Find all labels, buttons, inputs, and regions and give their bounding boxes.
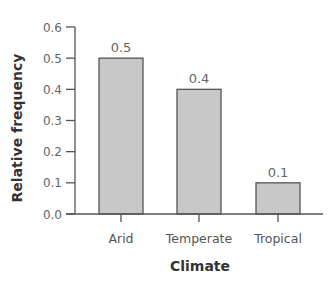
data-label: 0.4 bbox=[189, 71, 210, 86]
y-tick-label: 0.2 bbox=[43, 145, 62, 159]
y-tick-label: 0.6 bbox=[43, 21, 62, 35]
y-tick-label: 0.0 bbox=[43, 208, 62, 222]
y-tick-label: 0.1 bbox=[43, 176, 62, 190]
x-axis-label: Climate bbox=[170, 258, 230, 274]
y-tick-label: 0.4 bbox=[43, 83, 62, 97]
y-axis-label: Relative frequency bbox=[9, 54, 25, 203]
bar-chart: 0.00.10.20.30.40.50.6 0.50.40.1 AridTemp… bbox=[0, 0, 331, 281]
y-axis: 0.00.10.20.30.40.50.6 bbox=[43, 21, 75, 222]
bars: 0.50.40.1 bbox=[99, 40, 300, 214]
x-tick-label: Arid bbox=[108, 231, 133, 246]
bar-arid bbox=[99, 58, 143, 214]
data-label: 0.1 bbox=[268, 165, 289, 180]
y-tick-label: 0.5 bbox=[43, 52, 62, 66]
x-tick-label: Tropical bbox=[253, 231, 302, 246]
x-tick-label: Temperate bbox=[165, 231, 233, 246]
x-axis: AridTemperateTropical bbox=[66, 214, 323, 246]
y-tick-label: 0.3 bbox=[43, 114, 62, 128]
bar-tropical bbox=[256, 183, 300, 214]
bar-temperate bbox=[177, 89, 221, 214]
data-label: 0.5 bbox=[111, 40, 132, 55]
